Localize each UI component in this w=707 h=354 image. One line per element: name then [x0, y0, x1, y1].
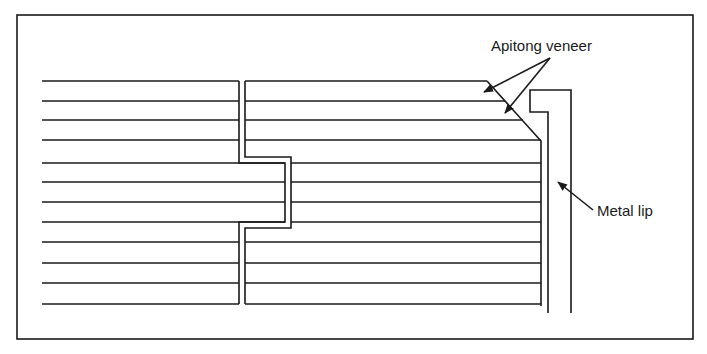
- left-laminate-piece: [42, 81, 285, 304]
- apitong-leader-2: [505, 58, 550, 113]
- frame-border: [17, 15, 693, 339]
- right-laminate-piece: [245, 81, 541, 306]
- cross-section-drawing: [0, 0, 707, 354]
- diagram-figure: Apitong veneer Metal lip: [0, 0, 707, 354]
- apitong-veneer-chamfer: [487, 81, 541, 306]
- apitong-veneer-label: Apitong veneer: [491, 38, 592, 53]
- metal-lip-label: Metal lip: [597, 203, 653, 218]
- apitong-leader-1: [484, 58, 550, 92]
- metal-lip-leader: [558, 182, 593, 210]
